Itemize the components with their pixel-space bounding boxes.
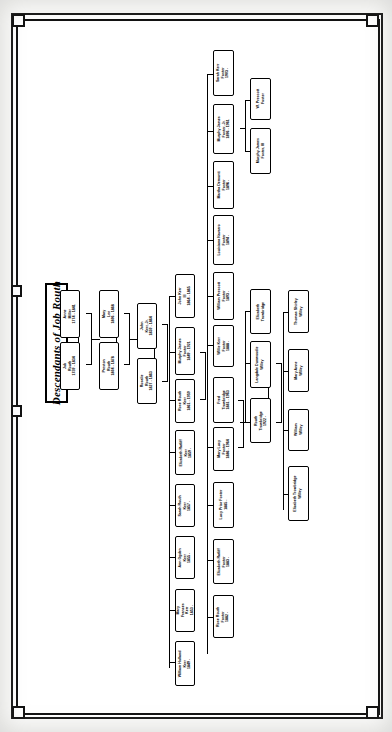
person-label: WilliamWilley (294, 424, 303, 437)
connector (200, 352, 206, 353)
corner-mark-bottom-left (12, 706, 25, 719)
person-node[interactable]: Louisiana NavarroFoster1894 - (213, 215, 234, 265)
person-label: Elizabeth TrowbridgeWilley (294, 475, 303, 511)
person-node[interactable]: RosalieRouth1827 - 1863 (137, 358, 157, 404)
person-label: John KerrIII1864 - 1865 (178, 286, 192, 305)
person-label: Thomas ShirleyWilley (294, 298, 303, 325)
person-node[interactable]: JohnKerr, Jr.1830 - 1864 (137, 303, 157, 349)
person-node[interactable]: MaryLee1806 - 1868 (99, 290, 119, 338)
connector (276, 422, 282, 423)
person-label: Murphy JamesFoster, III (256, 138, 265, 163)
person-label: PrestonRouth1804 - 1878 (102, 356, 116, 375)
connector (86, 364, 92, 365)
person-label: Mary AnneWilley (294, 361, 303, 379)
person-label: Elizabeth RatliffFoster1883 - (217, 548, 231, 575)
person-label: RosalieRouth1827 - 1863 (140, 371, 154, 390)
left-edge-notch-top (11, 285, 22, 297)
person-label: William HollandKerr1849 - (178, 650, 192, 677)
person-label: Elizabeth RatliffKerr1859 - (178, 439, 192, 466)
connector (238, 400, 244, 401)
connector (245, 311, 246, 423)
person-node[interactable]: AnneMiller1774 - 1841 (60, 290, 80, 338)
person-label: JobRouth1759 - 1834 (63, 356, 77, 375)
person-node[interactable]: Mary LucyFoster1886 - 1964 (213, 427, 234, 471)
person-node[interactable]: Lucy Prior Foster1885 - (213, 482, 234, 528)
person-node[interactable]: John KerrIII1864 - 1865 (175, 274, 195, 318)
person-node[interactable]: Elizabeth RatliffKerr1859 - (175, 430, 195, 475)
person-node[interactable]: MaryFrancesKerr1853 - (175, 589, 195, 632)
person-node[interactable]: Sarah RouthKerr1857 - (175, 484, 195, 527)
connector (124, 313, 130, 314)
person-label: Murphy JamesFoster1849 - 1921 (178, 338, 192, 363)
person-label: AnneMiller1774 - 1841 (63, 304, 77, 323)
person-node[interactable]: Rose RouthKerr1861 - 1959 (175, 379, 195, 423)
person-node[interactable]: Murphy JamesFoster, III (250, 128, 271, 174)
person-node[interactable]: WilliamWilley (288, 409, 309, 451)
person-node[interactable]: William HollandKerr1849 - (175, 641, 195, 686)
connector (240, 422, 246, 423)
connector (200, 399, 206, 400)
person-label: JohnKerr, Jr.1830 - 1864 (140, 316, 154, 335)
person-label: MaryFrancesKerr1853 - (176, 604, 194, 618)
person-node[interactable]: Murphy JamesFoster1849 - 1921 (175, 327, 195, 375)
person-node[interactable]: Langdale DunwoodieWilley (250, 341, 271, 388)
person-label: Lucy Prior Foster1885 - (219, 490, 228, 520)
chart-page: Descendants of Job Routh (0, 0, 392, 732)
connector (207, 74, 208, 654)
corner-mark-top-right (366, 14, 379, 27)
connector (240, 128, 246, 129)
person-label: Langdale DunwoodieWilley (256, 346, 265, 382)
corner-mark-bottom-right (366, 706, 379, 719)
person-label: W. PrescottFoster (256, 89, 265, 109)
person-label: Murphy JamesFoster, Jr.1896 - 1961 (217, 116, 231, 141)
person-node[interactable]: Martha DemonttFoster1896 - (213, 161, 234, 209)
person-label: Willie KerrFoster1888 - (217, 337, 231, 355)
person-label: Rose RouthKerr1861 - 1959 (178, 391, 192, 411)
person-label: Louisiana NavarroFoster1894 - (217, 224, 231, 255)
person-node[interactable]: Sarah KerrFoster1903 - (213, 50, 234, 96)
person-label: William PrescottFoster1893 - (217, 282, 231, 310)
connector (238, 447, 244, 448)
connector (86, 313, 92, 314)
person-label: ElizabethTrowbridge (256, 302, 265, 321)
connector (283, 312, 284, 510)
person-node[interactable]: Mary AnneWilley (288, 349, 309, 392)
person-node[interactable]: Rose RouthFoster1882 - (213, 595, 234, 638)
left-edge-notch-bottom (11, 405, 22, 417)
corner-mark-top-left (12, 14, 25, 27)
person-node[interactable]: JobRouth1759 - 1834 (60, 342, 80, 390)
person-node[interactable]: Murphy JamesFoster, Jr.1896 - 1961 (213, 104, 234, 154)
connector (91, 339, 100, 340)
person-node[interactable]: FredTrowbridge1881 - 1963 (213, 377, 234, 423)
person-node[interactable]: Ann OgdenKerr1855 - (175, 536, 195, 579)
person-label: Sarah KerrFoster1903 - (217, 64, 231, 82)
connector (162, 381, 168, 382)
person-label: Sarah RouthKerr1857 - (178, 495, 192, 516)
person-node[interactable]: Willie KerrFoster1888 - (213, 325, 234, 367)
connector (276, 363, 282, 364)
connector (162, 324, 168, 325)
person-node[interactable]: Elizabeth TrowbridgeWilley (288, 466, 309, 521)
person-label: RouthTrowbridge1922 - (254, 411, 268, 430)
person-node[interactable]: Elizabeth RatliffFoster1883 - (213, 539, 234, 584)
person-node[interactable]: W. PrescottFoster (250, 78, 271, 120)
connector (124, 364, 130, 365)
person-node[interactable]: ElizabethTrowbridge (250, 289, 271, 334)
person-label: Ann OgdenKerr1855 - (178, 548, 192, 567)
person-node[interactable]: Thomas ShirleyWilley (288, 290, 309, 333)
person-node[interactable]: RouthTrowbridge1922 - (250, 398, 271, 443)
person-label: Martha DemonttFoster1896 - (217, 171, 231, 198)
person-node[interactable]: William PrescottFoster1893 - (213, 272, 234, 320)
connector (245, 100, 246, 152)
person-label: MaryLee1806 - 1868 (102, 304, 116, 323)
person-label: Mary LucyFoster1886 - 1964 (217, 439, 231, 458)
person-node[interactable]: PrestonRouth1804 - 1878 (99, 342, 119, 390)
person-label: FredTrowbridge1881 - 1963 (217, 390, 231, 409)
person-label: Rose RouthFoster1882 - (217, 606, 231, 626)
